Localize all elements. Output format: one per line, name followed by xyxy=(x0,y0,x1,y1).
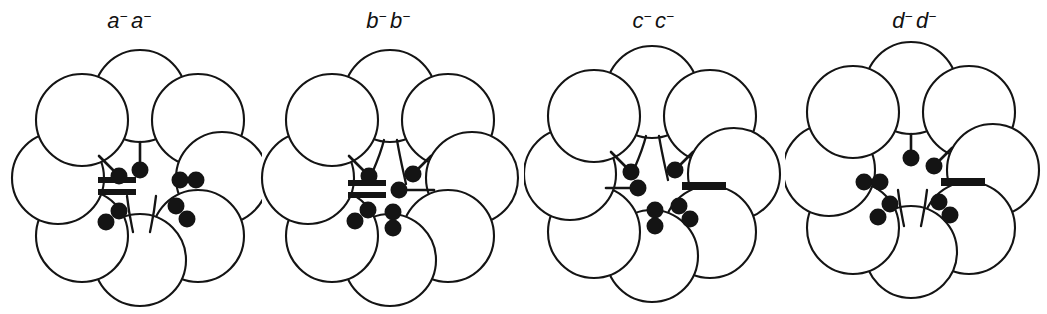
dot-lower-right-b xyxy=(942,207,959,224)
double-bar-lower xyxy=(348,192,386,198)
panel-a-rosette xyxy=(0,0,262,314)
panel-b-rosette xyxy=(259,0,521,314)
dot-stalk-top-right xyxy=(405,166,422,183)
dot-right-b xyxy=(188,172,205,189)
cell-top-left xyxy=(36,74,128,166)
figure-canvas: a−a− xyxy=(0,0,1047,314)
dot-stalk-top xyxy=(903,150,920,167)
dot-stalk-top-right xyxy=(667,162,684,179)
dot-stalk-top xyxy=(132,162,149,179)
double-bar-upper xyxy=(98,177,136,183)
fork-right-tine xyxy=(397,140,406,184)
dot-lower-right-b xyxy=(179,211,196,228)
cell-top-left xyxy=(548,70,640,162)
panel-b: b−b− xyxy=(259,0,521,314)
dot-lower-left-b xyxy=(870,209,887,226)
dot-stalk-top-right xyxy=(926,158,943,175)
dot-left-b xyxy=(872,174,889,191)
panel-a: a−a− xyxy=(0,0,262,314)
cell-top-left xyxy=(807,66,899,158)
dot-lower-left-b xyxy=(98,214,115,231)
dot-bottom-lower xyxy=(385,220,402,237)
double-bar-lower xyxy=(98,189,136,195)
dot-bottom-upper xyxy=(647,202,664,219)
dot-bottom-upper xyxy=(385,204,402,221)
dot-stalk-top-left xyxy=(623,164,640,181)
dot-lower-left-a xyxy=(882,196,899,213)
cell-top-left xyxy=(286,74,378,166)
dot-right-a xyxy=(172,172,189,189)
panel-d: d−d− xyxy=(785,0,1047,314)
dot-lower-left-a xyxy=(360,202,377,219)
dot-lower-right-b xyxy=(682,211,699,228)
dot-lower-right-a xyxy=(671,198,688,215)
fork-right-tine xyxy=(659,136,668,180)
single-bar xyxy=(941,178,985,186)
dot-stalk-left xyxy=(630,180,647,197)
dot-left-a xyxy=(856,174,873,191)
dot-lower-right-a xyxy=(168,198,185,215)
dot-lower-left-a xyxy=(111,203,128,220)
dot-lower-right-a xyxy=(931,194,948,211)
dot-lower-left-b xyxy=(347,213,364,230)
single-bar xyxy=(682,182,726,190)
double-bar-upper xyxy=(348,180,386,186)
panel-c-rosette xyxy=(524,0,786,314)
dot-stalk-right xyxy=(391,182,408,199)
dot-bottom-lower xyxy=(647,218,664,235)
panel-d-rosette xyxy=(785,0,1047,314)
panel-c: c−c− xyxy=(524,0,786,314)
